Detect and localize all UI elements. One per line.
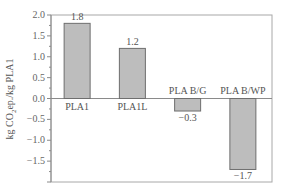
y-tick-label: 2.0 — [19, 10, 45, 20]
bar-chart: kg CO2ep./kg PLA1 2.01.51.00.50.0−0.5−1.… — [0, 0, 285, 196]
value-label: 1.2 — [112, 37, 152, 47]
y-tick-label: 0.0 — [19, 94, 45, 104]
y-tick-label: −1.0 — [19, 135, 45, 145]
bar-3 — [230, 99, 256, 170]
category-label: PLA B/WP — [213, 86, 273, 96]
y-axis-label: kg CO2ep./kg PLA1 — [3, 58, 19, 139]
y-tick-label: 1.5 — [19, 31, 45, 41]
value-label: −1.7 — [223, 171, 263, 181]
y-axis-label-pre: kg CO — [3, 113, 14, 139]
bar-0 — [64, 23, 90, 98]
y-axis-label-post: ep./kg PLA1 — [3, 58, 14, 109]
y-tick-label: 0.5 — [19, 73, 45, 83]
y-axis-label-sub: 2 — [9, 109, 17, 113]
bar-1 — [119, 48, 145, 98]
category-label: PLA B/G — [158, 86, 218, 96]
y-tick-label: −0.5 — [19, 114, 45, 124]
category-label: PLA1 — [47, 102, 107, 112]
category-label: PLA1L — [102, 102, 162, 112]
value-label: −0.3 — [168, 113, 208, 123]
y-tick-label: −1.5 — [19, 156, 45, 166]
y-tick-label: 1.0 — [19, 52, 45, 62]
bar-2 — [175, 99, 201, 112]
value-label: 1.8 — [57, 12, 97, 22]
